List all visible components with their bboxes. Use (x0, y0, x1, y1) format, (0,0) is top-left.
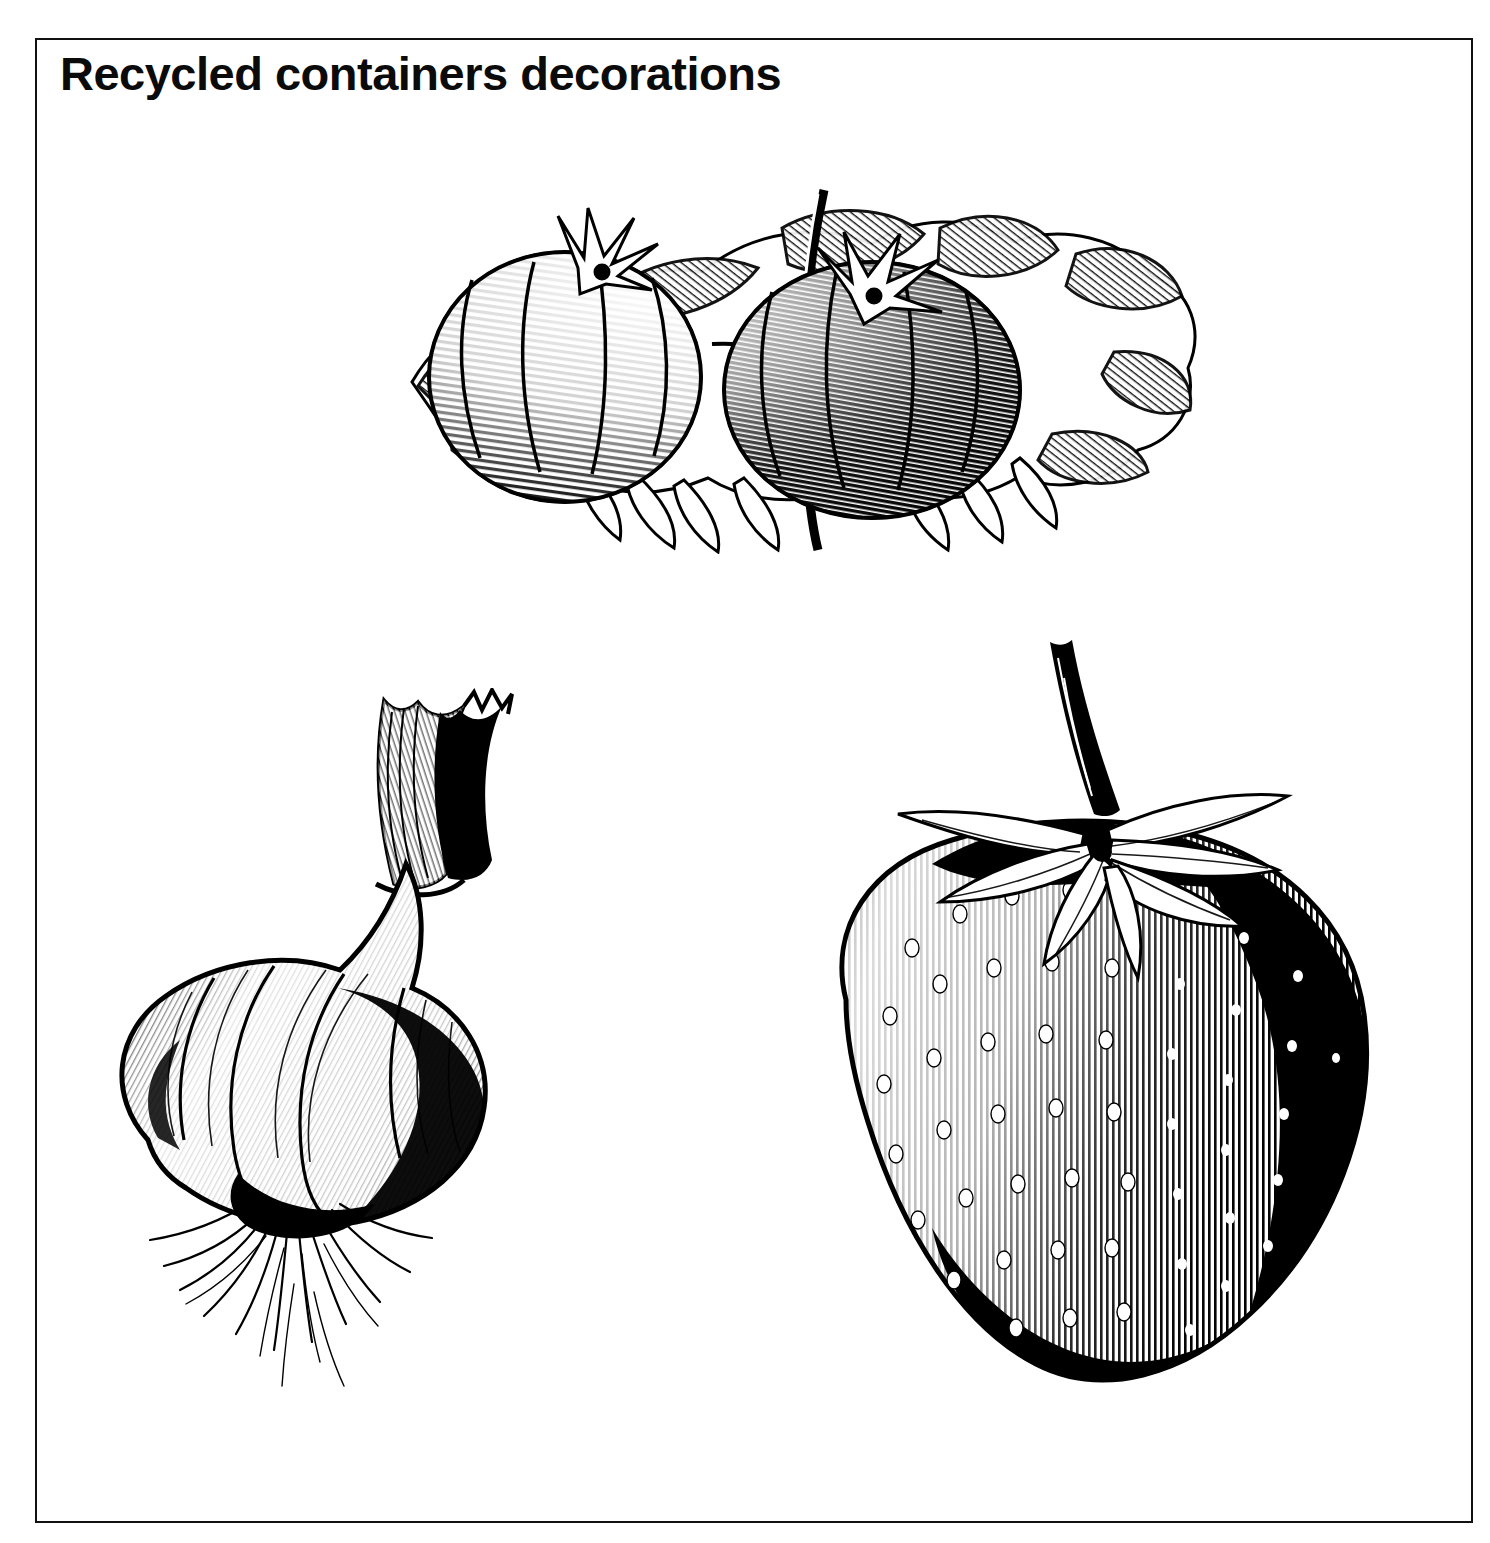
page-root: Recycled containers decorations (0, 0, 1490, 1543)
onion-bulb (88, 688, 558, 1436)
strawberry-engraving (812, 628, 1392, 1436)
tomato-engraving (352, 172, 1208, 554)
tomato-right (352, 172, 1208, 554)
strawberry-body (812, 628, 1392, 1436)
onion-engraving (88, 688, 558, 1436)
page-title: Recycled containers decorations (60, 48, 781, 100)
